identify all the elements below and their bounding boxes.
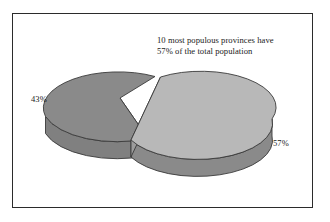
- pie-label-57: 57%: [273, 138, 289, 148]
- chart-annotation: 10 most populous provinces have 57% of t…: [157, 35, 274, 56]
- pie-slice-57[interactable]: [131, 71, 276, 176]
- figure-canvas: 43% 57% 10 most populous provinces have …: [0, 0, 330, 222]
- chart-annotation-line-2: 57% of the total population: [157, 46, 274, 57]
- pie-label-43: 43%: [31, 94, 47, 104]
- pie-chart-graphic: [0, 0, 330, 222]
- pie-slice-57-top: [131, 71, 276, 159]
- chart-annotation-line-1: 10 most populous provinces have: [157, 35, 274, 46]
